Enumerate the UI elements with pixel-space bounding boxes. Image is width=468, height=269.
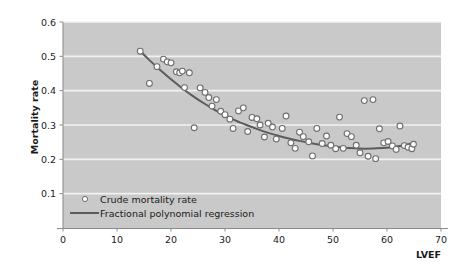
y-tick-label: 0.2 — [41, 154, 56, 165]
data-point — [411, 141, 417, 147]
data-point — [370, 97, 376, 103]
y-axis-title: Mortality rate — [29, 80, 40, 154]
data-point — [353, 142, 359, 148]
y-tick-label: 0.3 — [41, 120, 56, 131]
x-tick-label: 60 — [381, 234, 393, 245]
x-tick-label: 30 — [219, 234, 231, 245]
data-point — [337, 114, 343, 120]
data-point — [365, 153, 371, 159]
y-tick-label: 0.4 — [41, 85, 56, 96]
scatter-plot: 010203040506070 0.10.20.30.40.50.6 Morta… — [0, 0, 468, 269]
data-point — [310, 153, 316, 159]
data-point — [348, 134, 354, 140]
data-point — [202, 89, 208, 95]
data-point — [393, 146, 399, 152]
y-tick-label: 0.6 — [41, 17, 56, 28]
x-tick-label: 50 — [327, 234, 339, 245]
data-point — [283, 113, 289, 119]
data-point — [300, 134, 306, 140]
x-axis-tick-labels: 010203040506070 — [60, 234, 447, 245]
data-point — [324, 133, 330, 139]
data-point — [279, 126, 285, 132]
data-point — [147, 81, 153, 87]
x-axis-title: LVEF — [416, 249, 441, 260]
y-axis-ticks — [60, 22, 64, 194]
data-point — [179, 68, 185, 74]
data-point — [270, 124, 276, 130]
y-tick-label: 0.1 — [41, 188, 56, 199]
data-point — [340, 145, 346, 151]
x-tick-label: 70 — [435, 234, 447, 245]
y-axis-tick-labels: 0.10.20.30.40.50.6 — [41, 17, 56, 200]
data-point — [154, 64, 160, 70]
data-point — [292, 145, 298, 151]
x-tick-label: 10 — [111, 234, 123, 245]
data-point — [397, 123, 403, 129]
y-tick-label: 0.5 — [41, 51, 56, 62]
data-point — [357, 150, 363, 156]
data-point — [377, 126, 383, 132]
legend-marker-crude-mortality-rate — [82, 196, 87, 201]
data-point — [361, 98, 367, 104]
data-point — [213, 97, 219, 103]
data-point — [257, 122, 263, 128]
chart-figure: 010203040506070 0.10.20.30.40.50.6 Morta… — [0, 0, 468, 269]
data-point — [137, 48, 143, 54]
data-point — [245, 129, 251, 135]
data-point — [191, 125, 197, 131]
data-point — [230, 126, 236, 132]
data-point — [209, 103, 215, 109]
data-point — [254, 116, 260, 122]
data-point — [314, 126, 320, 132]
data-point — [288, 140, 294, 146]
legend-label-crude-mortality-rate: Crude mortality rate — [100, 194, 197, 205]
legend-label-fractional-polynomial-regression: Fractional polynomial regression — [100, 208, 254, 219]
data-point — [273, 136, 279, 142]
x-tick-label: 20 — [165, 234, 177, 245]
data-point — [319, 141, 325, 147]
data-point — [227, 116, 233, 122]
data-point — [306, 139, 312, 145]
data-point — [240, 105, 246, 111]
data-point — [222, 112, 228, 118]
data-point — [206, 95, 212, 101]
data-point — [333, 146, 339, 152]
x-tick-label: 0 — [60, 234, 66, 245]
data-point — [262, 134, 268, 140]
x-tick-label: 40 — [273, 234, 285, 245]
data-point — [182, 85, 188, 91]
data-point — [168, 60, 174, 66]
data-point — [373, 156, 379, 162]
data-point — [186, 70, 192, 76]
data-point — [197, 85, 203, 91]
